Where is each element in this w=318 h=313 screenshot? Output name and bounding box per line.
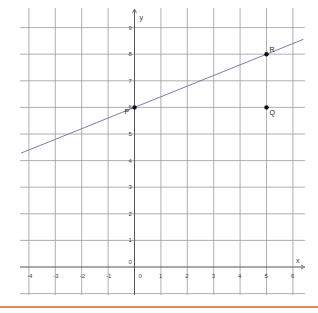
x-tick-label: -3 (53, 273, 59, 279)
line-pr (21, 39, 303, 153)
x-tick-label: -2 (80, 273, 86, 279)
x-tick-label: 5 (265, 273, 269, 279)
x-tick-label: -1 (106, 273, 112, 279)
x-tick-label: 0 (139, 273, 143, 279)
point-q (264, 105, 268, 109)
point-p (132, 105, 136, 109)
x-tick-label: 6 (291, 273, 295, 279)
axes: xy (20, 9, 305, 295)
point-label-r: R (270, 46, 275, 53)
x-tick-label: 3 (212, 273, 216, 279)
y-tick-label: 0 (129, 259, 133, 265)
x-tick-label: 2 (185, 273, 189, 279)
x-tick-label: 1 (159, 273, 163, 279)
x-axis-label: x (296, 257, 300, 264)
coordinate-plane: xy -4-3-2-101234560123456789 PRQ (0, 0, 318, 313)
point-label-q: Q (270, 109, 276, 117)
plotted-lines (21, 39, 303, 153)
plotted-points: PRQ (125, 46, 276, 117)
x-tick-label: 4 (238, 273, 242, 279)
point-label-p: P (125, 108, 130, 115)
x-tick-label: -4 (27, 273, 33, 279)
y-axis-label: y (140, 14, 144, 22)
bottom-divider (0, 306, 318, 308)
point-r (264, 52, 268, 56)
grid (20, 8, 305, 295)
